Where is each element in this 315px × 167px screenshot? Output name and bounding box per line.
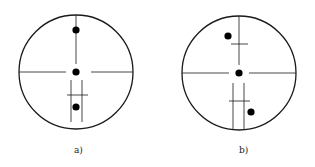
dot-a-top xyxy=(72,26,79,33)
dot-b-upper-left xyxy=(224,32,231,39)
dot-a-center xyxy=(72,68,79,75)
panel-label-b: b) xyxy=(239,146,248,155)
dot-b-center xyxy=(235,69,242,76)
panel-b-dots xyxy=(224,32,254,115)
reticle-diagram xyxy=(0,0,315,167)
panel-label-a: a) xyxy=(74,146,83,155)
dot-b-lower-right xyxy=(247,108,254,115)
dot-a-bottom xyxy=(72,103,79,110)
